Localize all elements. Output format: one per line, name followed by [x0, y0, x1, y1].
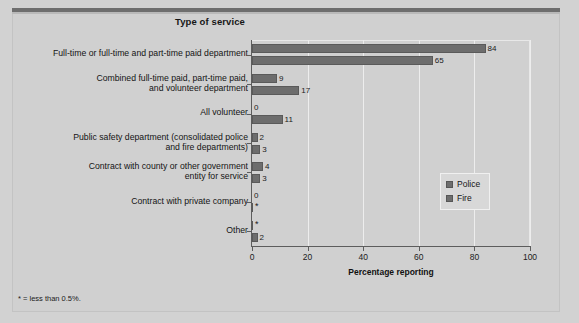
gridline — [530, 40, 531, 246]
legend-item-fire[interactable]: Fire — [446, 193, 472, 203]
bar-fire — [252, 203, 253, 212]
x-axis-tick-label: 100 — [523, 252, 537, 262]
gridline — [308, 40, 309, 246]
x-axis-tick-label: 0 — [250, 252, 255, 262]
x-axis-tick-label: 20 — [303, 252, 312, 262]
category-label: Contract with county or other government… — [89, 161, 248, 182]
bar-value-label: 84 — [488, 44, 497, 53]
legend-swatch-fire — [446, 195, 453, 202]
x-axis-tick-label: 40 — [358, 252, 367, 262]
bar-police — [252, 162, 263, 171]
category-label: Public safety department (consolidated p… — [73, 132, 248, 153]
bar-fire — [252, 86, 299, 95]
bar-value-label: 65 — [435, 56, 444, 65]
bar-value-label: 11 — [285, 115, 293, 124]
legend-label-police: Police — [457, 179, 480, 189]
legend-swatch-police — [446, 181, 453, 188]
chart-title: Type of service — [175, 16, 245, 27]
y-axis-tick — [247, 172, 252, 173]
bar-value-label: 4 — [265, 162, 269, 171]
bar-value-label: 0 — [254, 191, 258, 200]
bar-value-label: 2 — [260, 233, 264, 242]
bar-police — [252, 133, 258, 142]
gridline — [474, 40, 475, 246]
x-axis-tick — [530, 247, 531, 251]
category-label: Other — [226, 225, 248, 236]
gridline — [419, 40, 420, 246]
category-label: Contract with private company — [131, 196, 248, 207]
top-rule-shadow — [12, 12, 560, 14]
x-axis-tick — [363, 247, 364, 251]
chart-figure: Type of service 020406080100 Percentage … — [0, 0, 579, 323]
bar-value-label: 3 — [262, 145, 266, 154]
bar-police — [252, 221, 253, 230]
bar-fire — [252, 233, 258, 242]
x-axis-tick-label: 80 — [470, 252, 479, 262]
plot-area — [252, 40, 530, 246]
bar-value-label: * — [255, 202, 259, 211]
bar-value-label: 3 — [262, 174, 266, 183]
bar-police — [252, 44, 486, 53]
bar-value-label: 0 — [254, 103, 258, 112]
bar-value-label: * — [255, 220, 259, 229]
x-axis-tick — [474, 247, 475, 251]
x-axis-line — [251, 246, 531, 247]
x-axis-tick-label: 60 — [414, 252, 423, 262]
bar-value-label: 17 — [301, 86, 310, 95]
category-label: All volunteer — [200, 107, 248, 118]
bar-fire — [252, 56, 433, 65]
category-label: Combined full-time paid, part-time paid,… — [96, 73, 248, 94]
x-axis-tick — [252, 247, 253, 251]
bar-police — [252, 74, 277, 83]
bar-fire — [252, 145, 260, 154]
legend-label-fire: Fire — [457, 193, 472, 203]
legend: Police Fire — [440, 173, 490, 210]
x-axis-title: Percentage reporting — [252, 267, 530, 277]
x-axis-tick — [419, 247, 420, 251]
legend-item-police[interactable]: Police — [446, 179, 480, 189]
footnote: * = less than 0.5%. — [18, 294, 81, 303]
bar-value-label: 2 — [260, 133, 264, 142]
bar-value-label: 9 — [279, 74, 283, 83]
gridline — [363, 40, 364, 246]
bar-fire — [252, 115, 283, 124]
category-label: Full-time or full-time and part-time pai… — [53, 48, 248, 59]
bar-fire — [252, 174, 260, 183]
x-axis-tick — [308, 247, 309, 251]
